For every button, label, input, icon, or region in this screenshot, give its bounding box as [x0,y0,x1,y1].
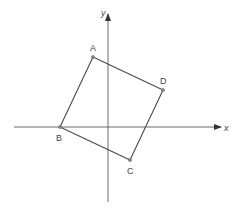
label-a: A [90,43,96,53]
x-axis-label: x [223,123,229,133]
label-c: C [127,166,134,176]
quadrilateral-abcd [60,57,163,160]
diagram-canvas: x y A B C D [0,0,237,215]
point-d [161,88,164,91]
y-axis-label: y [100,8,106,18]
point-b [58,125,61,128]
label-d: D [160,76,167,86]
point-c [128,158,131,161]
label-b: B [56,133,62,143]
point-a [91,55,94,58]
